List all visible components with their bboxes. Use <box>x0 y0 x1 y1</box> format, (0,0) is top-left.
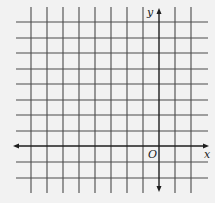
x-axis-label: x <box>204 148 211 161</box>
coordinate-grid: y x O <box>0 0 215 203</box>
x-axis-arrow-left-icon <box>13 144 19 149</box>
y-axis-arrow-down-icon <box>157 186 162 192</box>
y-axis-arrow-up-icon <box>157 8 162 14</box>
y-axis-label: y <box>146 6 154 19</box>
origin-label: O <box>148 148 157 161</box>
grid-lines <box>16 7 208 193</box>
